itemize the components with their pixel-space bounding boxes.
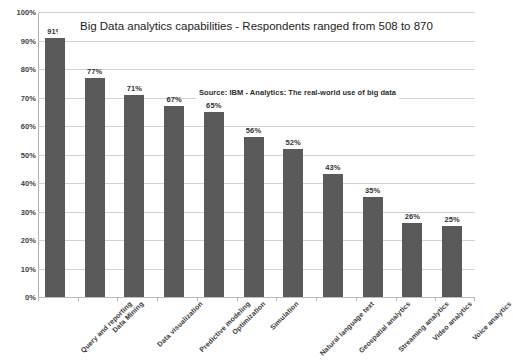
bar[interactable]: [283, 149, 303, 297]
x-axis-category-label: Voice analytics: [471, 300, 512, 341]
y-axis-tick-label: 90%: [2, 36, 36, 45]
bar[interactable]: [323, 174, 343, 297]
bar-value-label: 65%: [197, 101, 231, 110]
gridline: [38, 297, 475, 298]
bar-value-label: 67%: [157, 95, 191, 104]
y-axis-tick-label: 0%: [2, 293, 36, 302]
x-axis-category-label: Simulation: [268, 300, 299, 331]
y-axis-tick-label: 100%: [2, 8, 36, 17]
y-axis-tick-label: 20%: [2, 236, 36, 245]
bar[interactable]: [124, 95, 144, 297]
bar[interactable]: [244, 137, 264, 297]
y-axis-tick-label: 10%: [2, 264, 36, 273]
bar-value-label: 52%: [276, 138, 310, 147]
x-axis-category-labels: Query and reportingData MiningData visua…: [38, 300, 475, 364]
bar-value-label: 56%: [237, 126, 271, 135]
bar-value-label: 43%: [316, 163, 350, 172]
y-axis-tick-label: 30%: [2, 207, 36, 216]
bar-value-label: 25%: [435, 215, 469, 224]
bar-value-label: 26%: [395, 212, 429, 221]
bar-value-label: 35%: [356, 186, 390, 195]
y-axis-tick-label: 80%: [2, 65, 36, 74]
y-axis-tick-label: 40%: [2, 179, 36, 188]
y-axis-tick-label: 60%: [2, 122, 36, 131]
source-note: Source: IBM - Analytics: The real-world …: [199, 88, 396, 97]
bar[interactable]: [164, 106, 184, 297]
plot-area: 91%77%71%67%65%56%52%43%35%26%25%: [38, 12, 475, 297]
source-note-box: Source: IBM - Analytics: The real-world …: [196, 80, 399, 100]
gridline: [38, 41, 475, 42]
y-axis-tick-label: 70%: [2, 93, 36, 102]
y-axis-tick-label: 50%: [2, 150, 36, 159]
chart-title-box: Big Data analytics capabilities - Respon…: [58, 16, 458, 36]
bar[interactable]: [85, 78, 105, 297]
bar-value-label: 71%: [117, 84, 151, 93]
bar[interactable]: [402, 223, 422, 297]
bar[interactable]: [363, 197, 383, 297]
y-axis-tick-labels: 100%90%80%70%60%50%40%30%20%10%0%: [0, 12, 36, 297]
bar[interactable]: [45, 38, 65, 297]
bar[interactable]: [204, 112, 224, 297]
chart-title: Big Data analytics capabilities - Respon…: [80, 20, 433, 32]
x-axis-category-label: Query and reporting: [79, 300, 133, 354]
x-axis-category-label: Data visualization: [156, 300, 204, 348]
bar-value-label: 77%: [78, 67, 112, 76]
gridline: [38, 12, 475, 13]
bar[interactable]: [442, 226, 462, 297]
